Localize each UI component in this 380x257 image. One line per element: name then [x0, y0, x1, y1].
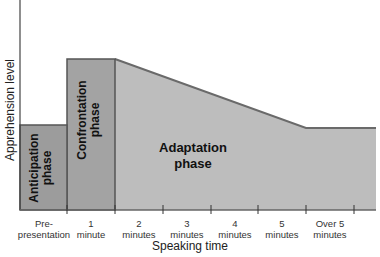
x-tick-label: 5minutes: [257, 218, 307, 240]
x-tick-label: 1minute: [66, 218, 116, 240]
adaptation-area: [115, 59, 376, 210]
adaptation-phase-label: Adaptation phase: [148, 140, 238, 172]
x-tick-label: 3minutes: [162, 218, 212, 240]
x-tick-label: 2minutes: [114, 218, 164, 240]
confrontation-phase-label: Confrontation phase: [76, 72, 106, 168]
y-axis-label: Apprehension level: [3, 50, 17, 170]
anticipation-phase-label: Anticipation phase: [28, 120, 58, 216]
x-tick-label: Pre-presentation: [14, 218, 74, 240]
x-axis-label: Speaking time: [0, 239, 380, 253]
x-tick-label: Over 5minutes: [305, 218, 355, 240]
x-tick-label: 4minutes: [210, 218, 260, 240]
